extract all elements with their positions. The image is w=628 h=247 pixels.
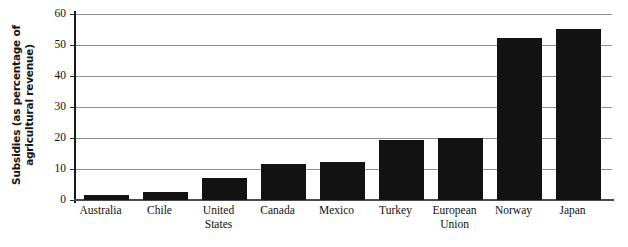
y-tick-label-50: 50 [44, 39, 66, 50]
x-tick-label-european-union-line-2: Union [416, 218, 493, 232]
y-tick-label-30: 30 [44, 101, 66, 112]
bar-chile [143, 192, 188, 200]
y-tick-label-40: 40 [44, 70, 66, 81]
bar-norway [497, 38, 542, 200]
x-tick-label-united-states-line-2: States [180, 218, 257, 232]
x-tick-label-japan: Japan [534, 204, 611, 218]
y-axis-title-line-1: Subsidies (as percentage of [10, 25, 23, 185]
y-tick-label-20: 20 [44, 132, 66, 143]
x-tick-label-japan-line-1: Japan [534, 204, 611, 218]
bar-chart: Subsidies (as percentage of agricultural… [0, 0, 628, 247]
bar-united-states [202, 178, 247, 200]
bar-australia [84, 195, 129, 200]
bar-japan [556, 29, 601, 200]
bar-turkey [379, 140, 424, 200]
gridline-60 [76, 14, 612, 15]
bar-canada [261, 164, 306, 200]
y-tick-label-60: 60 [44, 8, 66, 19]
plot-area [76, 14, 612, 200]
bar-mexico [320, 162, 365, 200]
y-axis-title-line-2: agricultural revenue) [23, 25, 36, 185]
y-tick-label-10: 10 [44, 163, 66, 174]
bar-european-union [438, 138, 483, 200]
y-axis-title: Subsidies (as percentage of agricultural… [0, 0, 46, 210]
